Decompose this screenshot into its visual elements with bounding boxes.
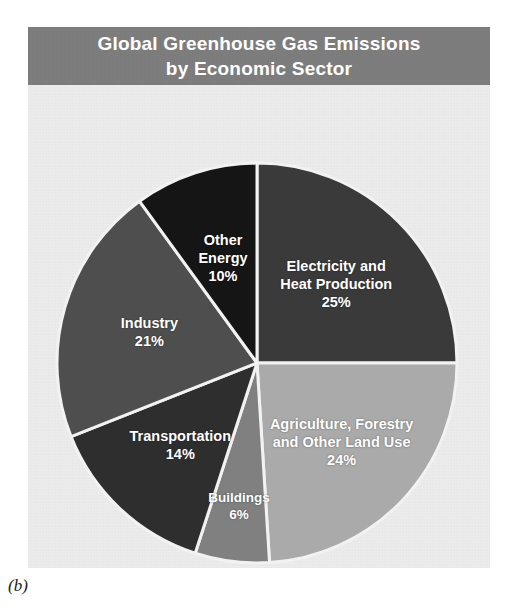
pie-slice-label-text: and Other Land Use [270, 433, 413, 451]
pie-slice-label: Buildings6% [208, 489, 270, 523]
chart-panel: Global Greenhouse Gas Emissions by Econo… [28, 27, 490, 568]
pie-slice-value: 24% [270, 451, 413, 469]
pie-slice-label-text: Buildings [208, 489, 270, 506]
pie-slice-label-text: Electricity and [280, 257, 392, 275]
chart-title-line-1: Global Greenhouse Gas Emissions [98, 31, 421, 56]
pie-slice-label: Electricity andHeat Production25% [280, 257, 392, 311]
pie-slice-label-text: Energy [198, 249, 247, 267]
pie-slice-value: 14% [130, 445, 232, 463]
pie-slice-label-text: Heat Production [280, 275, 392, 293]
pie-slice-label-text: Other [198, 231, 247, 249]
pie-slice-label: OtherEnergy10% [198, 231, 247, 285]
pie-slice-label: Agriculture, Forestryand Other Land Use2… [270, 415, 413, 469]
pie-slice-label-text: Industry [121, 314, 178, 332]
pie-slice-label-text: Transportation [130, 427, 232, 445]
chart-title-line-2: by Economic Sector [166, 56, 352, 81]
pie-chart: Electricity andHeat Production25%Agricul… [28, 85, 490, 568]
figure-caption: (b) [8, 576, 28, 596]
pie-slice-label: Transportation14% [130, 427, 232, 463]
pie-slice-value: 6% [208, 506, 270, 523]
chart-title-bar: Global Greenhouse Gas Emissions by Econo… [28, 27, 490, 85]
pie-slice-label-text: Agriculture, Forestry [270, 415, 413, 433]
pie-slice-label: Industry21% [121, 314, 178, 350]
pie-slice-value: 10% [198, 267, 247, 285]
pie-slice-value: 25% [280, 293, 392, 311]
figure-container: Global Greenhouse Gas Emissions by Econo… [0, 0, 510, 608]
pie-slice-value: 21% [121, 332, 178, 350]
